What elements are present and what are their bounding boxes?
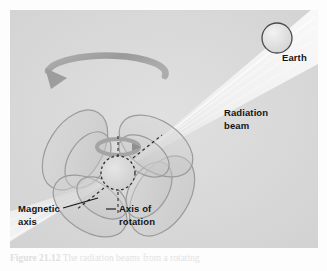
earth-label: Earth	[282, 52, 307, 63]
figure-caption-text: The radiation beams from a rotating	[63, 253, 200, 263]
neutron-star	[101, 156, 135, 190]
axis-of-rotation-label-line1: Axis of	[119, 203, 152, 214]
radiation-beam-label-line2: beam	[224, 120, 249, 131]
radiation-beam-label-line1: Radiation	[224, 107, 268, 118]
magnetic-axis-label-line1: Magnetic	[18, 203, 60, 214]
neutron-star-body	[101, 156, 135, 190]
figure-root: Earth Radiation beam Magnetic axis Axis …	[0, 0, 327, 271]
pulsar-diagram-svg: Earth Radiation beam Magnetic axis Axis …	[10, 10, 318, 248]
pulsar-diagram-panel: Earth Radiation beam Magnetic axis Axis …	[10, 10, 318, 248]
axis-of-rotation-label-line2: rotation	[119, 216, 155, 227]
earth	[262, 23, 292, 53]
figure-caption: Figure 21.12 The radiation beams from a …	[10, 252, 322, 271]
magnetic-axis-label-line2: axis	[18, 216, 37, 227]
figure-caption-number: Figure 21.12	[10, 253, 61, 263]
